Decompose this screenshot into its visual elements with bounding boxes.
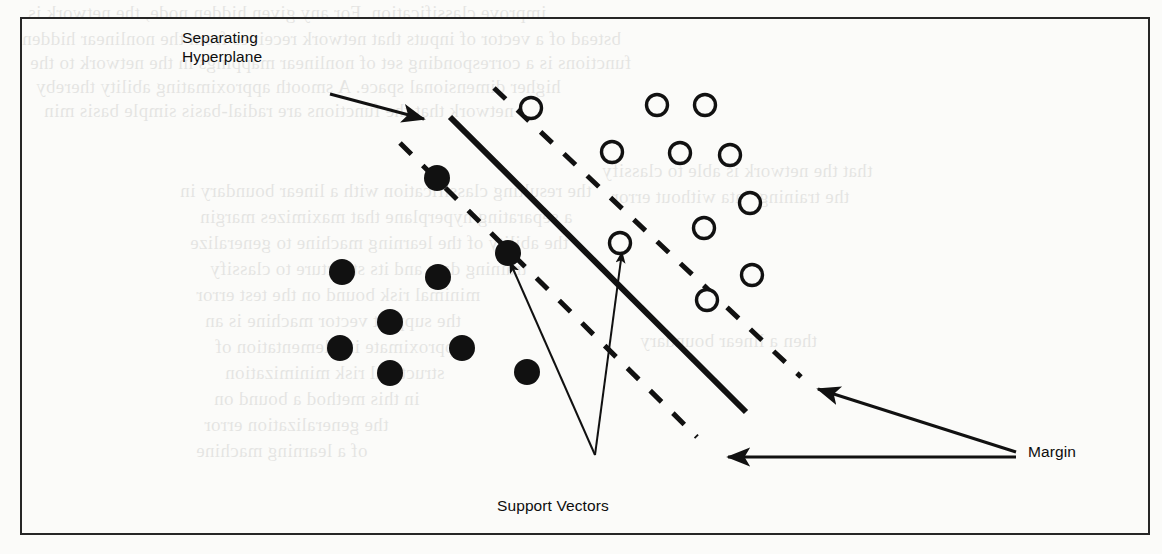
- point-class-positive-open: [695, 95, 716, 116]
- point-class-negative-filled: [449, 335, 475, 361]
- label-support-vectors: Support Vectors: [497, 496, 609, 515]
- point-class-negative-filled-support-vector: [495, 240, 521, 266]
- diagram-canvas: [0, 0, 1162, 554]
- boundary-lines: [400, 88, 801, 437]
- point-class-negative-filled-support-vector: [424, 165, 450, 191]
- point-class-positive-open-support-vector: [521, 98, 542, 119]
- arrow-hyperplane-pointer: [330, 94, 424, 119]
- line-separating-hyperplane: [450, 117, 746, 412]
- arrow-support-vector-pointer-left: [510, 262, 595, 455]
- arrow-support-vector-pointer-right: [595, 252, 622, 455]
- point-class-positive-open-support-vector: [610, 233, 631, 254]
- point-class-negative-filled: [377, 309, 403, 335]
- point-class-negative-filled: [377, 360, 403, 386]
- point-class-negative-filled: [514, 359, 540, 385]
- point-class-negative-filled: [329, 259, 355, 285]
- point-class-positive-open: [670, 143, 691, 164]
- label-margin: Margin: [1028, 442, 1076, 461]
- point-class-negative-filled: [425, 264, 451, 290]
- point-class-positive-open: [694, 218, 715, 239]
- point-class-positive-open-support-vector: [697, 290, 718, 311]
- point-class-positive-open: [742, 265, 763, 286]
- arrow-margin-pointer-upper: [818, 389, 1016, 452]
- label-separating-hyperplane: Separating Hyperplane: [182, 28, 262, 66]
- point-class-positive-open: [602, 142, 623, 163]
- scanned-page: improve classification. For any given hi…: [0, 0, 1162, 554]
- point-class-positive-open: [720, 145, 741, 166]
- point-class-positive-open: [740, 193, 761, 214]
- line-margin-boundary-upper: [494, 88, 801, 377]
- point-class-negative-filled: [327, 335, 353, 361]
- point-class-positive-open: [647, 95, 668, 116]
